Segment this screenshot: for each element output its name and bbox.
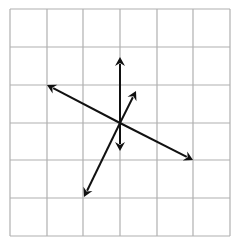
arrow-shaft (120, 123, 187, 157)
arrow-shaft (120, 97, 133, 123)
arrow-shaft (87, 123, 120, 191)
arrow-vertical-up (115, 57, 125, 123)
arrow-shaft (53, 88, 120, 123)
arrow-upper-right (120, 91, 136, 123)
arrow-vertical-down (115, 123, 125, 151)
vector-diagram (0, 0, 237, 245)
